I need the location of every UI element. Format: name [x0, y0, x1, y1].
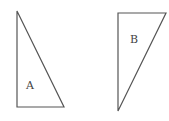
- triangle-a-label: A: [25, 79, 35, 92]
- triangles-diagram: A B: [0, 0, 169, 121]
- triangle-a: [17, 11, 64, 107]
- triangle-b-label: B: [130, 33, 138, 46]
- triangle-b: [118, 13, 166, 111]
